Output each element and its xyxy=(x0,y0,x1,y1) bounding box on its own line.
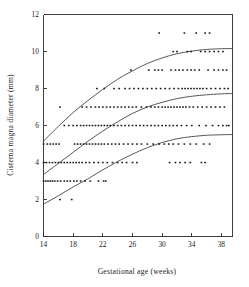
data-point xyxy=(198,69,200,71)
data-point xyxy=(86,106,88,108)
data-point xyxy=(199,88,201,90)
data-point xyxy=(78,162,80,164)
data-point xyxy=(66,162,68,164)
data-point xyxy=(189,162,191,164)
data-point xyxy=(218,69,220,71)
x-tick-label: 18 xyxy=(69,240,77,249)
data-point xyxy=(63,180,65,182)
data-point xyxy=(113,88,115,90)
data-point xyxy=(98,180,100,182)
data-point xyxy=(184,162,186,164)
x-axis-ticks: 14182226303438 xyxy=(40,233,226,248)
data-point xyxy=(81,106,83,108)
data-point xyxy=(197,106,199,108)
data-point xyxy=(152,143,154,145)
data-point xyxy=(182,106,184,108)
data-point xyxy=(58,143,60,145)
data-point xyxy=(186,51,188,53)
data-point xyxy=(148,69,150,71)
plot-frame xyxy=(44,15,233,237)
data-point xyxy=(102,162,104,164)
data-point xyxy=(89,180,91,182)
chart-canvas: 14182226303438 024681012 Gestational age… xyxy=(0,0,249,287)
data-point xyxy=(126,162,128,164)
data-point xyxy=(72,125,74,127)
data-point xyxy=(227,88,229,90)
data-point xyxy=(73,180,75,182)
data-point xyxy=(113,125,115,127)
data-point xyxy=(60,180,62,182)
data-point xyxy=(46,143,48,145)
data-point xyxy=(219,106,221,108)
y-tick-label: 6 xyxy=(35,121,39,130)
y-axis-ticks: 024681012 xyxy=(32,10,47,241)
data-point xyxy=(210,88,212,90)
data-point xyxy=(69,162,71,164)
data-point xyxy=(93,162,95,164)
data-point xyxy=(187,88,189,90)
data-point xyxy=(222,69,224,71)
data-point xyxy=(132,106,134,108)
data-point xyxy=(158,106,160,108)
data-point xyxy=(105,180,107,182)
data-point xyxy=(128,125,130,127)
data-point xyxy=(66,180,68,182)
data-point xyxy=(107,143,109,145)
x-tick-label: 14 xyxy=(40,240,48,249)
data-point xyxy=(179,162,181,164)
data-point xyxy=(176,106,178,108)
data-point xyxy=(135,125,137,127)
data-point xyxy=(164,106,166,108)
y-tick-label: 12 xyxy=(32,10,40,19)
data-point xyxy=(143,125,145,127)
data-point xyxy=(52,143,54,145)
data-point xyxy=(135,106,137,108)
data-point xyxy=(83,143,85,145)
data-point xyxy=(98,143,100,145)
data-point xyxy=(85,162,87,164)
data-point xyxy=(106,125,108,127)
data-point xyxy=(47,180,49,182)
data-point xyxy=(123,143,125,145)
data-point xyxy=(181,125,183,127)
data-point xyxy=(133,88,135,90)
data-point xyxy=(210,106,212,108)
data-point xyxy=(190,51,192,53)
data-point xyxy=(192,106,194,108)
data-point xyxy=(209,143,211,145)
data-point xyxy=(52,180,54,182)
data-point xyxy=(103,125,105,127)
data-point xyxy=(222,125,224,127)
data-point xyxy=(190,69,192,71)
data-point xyxy=(132,162,134,164)
data-point xyxy=(106,162,108,164)
data-point xyxy=(80,125,82,127)
data-point xyxy=(228,125,230,127)
data-point xyxy=(55,143,57,145)
data-point xyxy=(49,180,51,182)
data-point xyxy=(150,125,152,127)
data-point xyxy=(121,162,123,164)
data-point xyxy=(172,143,174,145)
data-point xyxy=(209,32,211,34)
data-point xyxy=(178,69,180,71)
data-point xyxy=(201,106,203,108)
data-point xyxy=(206,88,208,90)
data-point xyxy=(109,106,111,108)
data-point xyxy=(165,125,167,127)
data-point xyxy=(181,88,183,90)
fit-curve xyxy=(44,94,233,175)
data-point xyxy=(160,88,162,90)
data-point xyxy=(158,69,160,71)
data-point xyxy=(63,125,65,127)
data-point xyxy=(176,51,178,53)
data-point xyxy=(169,125,171,127)
data-point xyxy=(226,69,228,71)
data-point xyxy=(83,125,85,127)
data-point xyxy=(172,51,174,53)
data-point xyxy=(43,143,45,145)
data-point xyxy=(129,88,131,90)
data-point xyxy=(168,143,170,145)
data-point xyxy=(189,106,191,108)
data-point xyxy=(154,69,156,71)
